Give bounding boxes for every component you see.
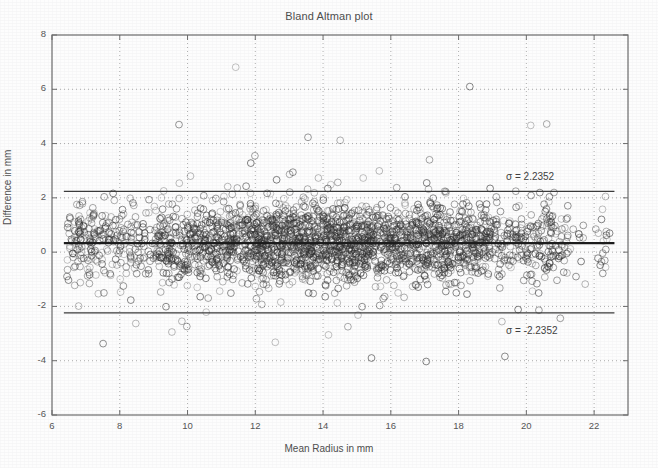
scatter-points bbox=[64, 64, 613, 365]
y-tick-label: 6 bbox=[18, 82, 46, 93]
plot-canvas bbox=[0, 0, 658, 468]
upper-sigma-annotation: σ = 2.2352 bbox=[506, 171, 554, 182]
x-tick-label: 16 bbox=[376, 420, 406, 431]
x-tick-label: 14 bbox=[308, 420, 338, 431]
x-tick-label: 10 bbox=[173, 420, 203, 431]
y-tick-label: -6 bbox=[18, 408, 46, 419]
y-tick-label: 4 bbox=[18, 137, 46, 148]
x-tick-label: 6 bbox=[37, 420, 67, 431]
x-tick-label: 22 bbox=[579, 420, 609, 431]
x-tick-label: 18 bbox=[444, 420, 474, 431]
x-tick-label: 20 bbox=[511, 420, 541, 431]
x-tick-label: 12 bbox=[240, 420, 270, 431]
x-tick-label: 8 bbox=[105, 420, 135, 431]
y-tick-label: 8 bbox=[18, 28, 46, 39]
y-tick-label: 0 bbox=[18, 245, 46, 256]
bland-altman-figure: Bland Altman plot Difference in mm Mean … bbox=[0, 0, 658, 468]
y-tick-label: -2 bbox=[18, 299, 46, 310]
y-tick-label: 2 bbox=[18, 191, 46, 202]
y-tick-label: -4 bbox=[18, 354, 46, 365]
lower-sigma-annotation: σ = -2.2352 bbox=[506, 325, 557, 336]
